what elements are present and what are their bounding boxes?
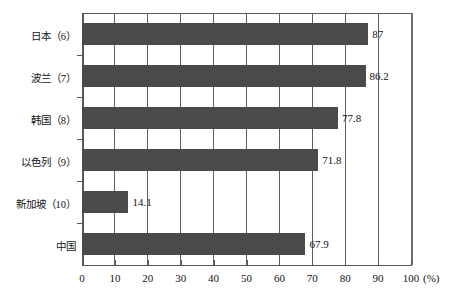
category-label: 日本（6） [0,28,76,43]
plot-area [82,13,411,265]
x-axis-tick-label: 90 [373,272,384,284]
gridline-60 [279,13,280,265]
gridline-10 [114,13,115,265]
gridline-50 [246,13,247,265]
x-axis-tick-label: 50 [241,272,252,284]
y-axis-tick [77,181,82,182]
value-label: 87 [372,28,383,40]
bar [82,23,368,45]
x-axis-tick-label: 100 [403,272,420,284]
gridline-30 [180,13,181,265]
x-axis-tick [411,260,412,265]
category-label: 韩国（8） [0,112,76,127]
x-axis-tick [312,260,313,265]
category-label: 中国 [0,238,76,253]
x-axis-tick-label: 80 [340,272,351,284]
gridline-90 [378,13,379,265]
bar [82,191,128,213]
x-axis-tick-label: 60 [274,272,285,284]
gridline-70 [312,13,313,265]
x-axis-tick-label: 10 [109,272,120,284]
category-label: 以色列（9） [0,154,76,169]
x-axis-tick-label: 20 [142,272,153,284]
x-axis-tick-label: 0 [79,272,85,284]
value-label: 71.8 [322,154,341,166]
x-axis-tick [181,260,182,265]
x-axis-tick [115,260,116,265]
x-axis-tick [82,260,83,265]
bar [82,107,338,129]
gridline-20 [147,13,148,265]
y-axis-tick [77,97,82,98]
x-axis-tick-label: 30 [175,272,186,284]
value-label: 77.8 [342,112,361,124]
bar [82,65,366,87]
x-axis-tick [148,260,149,265]
category-label: 波兰（7） [0,70,76,85]
category-label: 新加坡（10） [0,196,76,211]
bar [82,149,318,171]
x-axis-tick [378,260,379,265]
x-axis-tick-label: 70 [307,272,318,284]
bar [82,233,305,255]
y-axis-tick [77,139,82,140]
bar-chart: 日本（6）波兰（7）韩国（8）以色列（9）新加坡（10）中国 8786.277.… [0,0,456,298]
gridline-80 [345,13,346,265]
y-axis-tick [77,223,82,224]
value-label: 67.9 [309,238,328,250]
x-axis-tick [247,260,248,265]
x-axis-tick [279,260,280,265]
gridline-40 [213,13,214,265]
value-label: 86.2 [370,70,389,82]
x-axis [82,265,412,266]
x-axis-tick-label: 40 [208,272,219,284]
y-axis-tick [77,55,82,56]
x-axis-tick [214,260,215,265]
x-axis-tick [345,260,346,265]
value-label: 14.1 [132,196,151,208]
x-axis-unit-label: (%) [423,272,440,284]
gridline-100 [411,13,413,265]
